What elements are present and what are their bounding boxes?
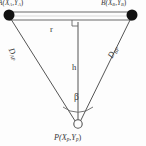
label-target-p-name: P( [54, 133, 62, 142]
label-anchor-a-close: ) [21, 0, 23, 7]
target-node-p [74, 120, 82, 128]
label-height-h: h [72, 63, 76, 72]
line-distance-ap [9, 16, 77, 124]
diagram-canvas [0, 0, 146, 146]
label-anchor-b: B(XB,YB) [101, 0, 126, 8]
label-target-p: P(Xp,Yp) [54, 134, 81, 143]
label-target-p-close: ) [78, 133, 81, 142]
label-baseline-r: r [50, 25, 53, 34]
right-angle-marker [72, 20, 78, 26]
line-distance-bp [79, 16, 132, 124]
label-angle-beta: β [74, 93, 79, 102]
label-anchor-b-close: ) [124, 0, 126, 7]
geometry-diagram: A(XA,YA) B(XB,YB) P(Xp,Yp) r h β DAP DBP [0, 0, 146, 146]
label-anchor-b-name: B( [101, 0, 108, 7]
anchor-node-a [4, 10, 15, 21]
label-anchor-a: A(XA,YA) [0, 0, 23, 8]
anchor-node-b [127, 10, 138, 21]
